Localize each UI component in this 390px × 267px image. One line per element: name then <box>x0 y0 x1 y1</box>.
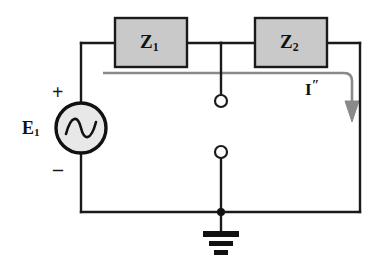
current-label: I″ <box>305 79 319 98</box>
ac-source-symbol <box>56 103 106 153</box>
ground-bar-1 <box>203 231 239 237</box>
ground-symbol <box>203 231 239 255</box>
circuit-diagram: Z1 Z2 E1 + – I″ <box>0 0 390 267</box>
current-path-group <box>103 73 359 122</box>
current-arrowhead-icon <box>345 101 359 122</box>
source-plus-sign: + <box>52 82 63 102</box>
source-minus-sign: – <box>53 159 63 179</box>
source-label: E1 <box>22 119 40 139</box>
wire-group <box>81 43 360 232</box>
ground-bar-3 <box>214 250 228 255</box>
terminal-upper-icon <box>215 95 227 107</box>
terminal-group <box>215 95 227 158</box>
ground-bar-2 <box>209 241 233 246</box>
ground-junction-dot <box>217 208 225 216</box>
impedance-z2-label: Z2 <box>280 32 299 53</box>
impedance-z1-label: Z1 <box>140 32 159 53</box>
terminal-lower-icon <box>215 146 227 158</box>
circuit-schematic-svg <box>0 0 390 267</box>
